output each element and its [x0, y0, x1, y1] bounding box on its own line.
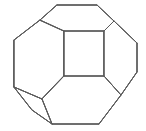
drawing-background	[0, 0, 146, 131]
polyhedron-wireframe-drawing	[0, 0, 146, 131]
polyhedron-figure-container	[0, 0, 146, 131]
